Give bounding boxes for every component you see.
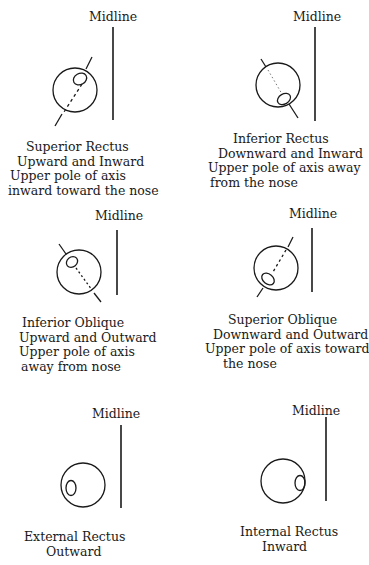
midline-label: Midline [289,206,337,221]
midline-label: Midline [292,403,340,418]
axis-solid-bottom [55,114,62,126]
axis-text: Upper pole of axis [19,345,157,360]
axis-dashed [76,268,92,290]
pupil-icon [64,254,80,269]
internal-rectus-figure [261,417,326,503]
muscle-title: Inferior Rectus [208,132,363,147]
axis-text: Upper pole of axis [4,169,159,184]
axis-text: away from nose [19,360,157,375]
midline-label: Midline [89,9,137,24]
pupil-icon [66,481,76,496]
eyeball-icon [53,68,97,112]
axis-solid-top [288,237,293,247]
caption-inferior-rectus: Inferior Rectus Downward and Inward Uppe… [208,132,363,190]
midline-label: Midline [293,9,341,24]
muscle-title: Superior Oblique [205,313,369,328]
movement-text: Upward and Inward [4,155,159,170]
axis-text: inward toward the nose [4,184,159,199]
superior-rectus-figure [53,27,113,126]
eyeball-icon [261,459,305,503]
inferior-rectus-figure [256,27,315,121]
inferior-oblique-figure [57,230,117,302]
axis-dashed [268,70,282,94]
caption-superior-rectus: Superior Rectus Upward and Inward Upper … [4,140,159,198]
axis-text: Upper pole of axis toward [205,342,369,357]
axis-text: from the nose [208,176,363,191]
axis-text: Upper pole of axis away [208,161,363,176]
axis-solid-bottom [257,288,263,297]
muscle-title: Inferior Oblique [19,316,157,331]
caption-internal-rectus: Internal Rectus Inward [240,525,338,554]
external-rectus-figure [61,425,121,508]
midline-label: Midline [95,208,143,223]
axis-solid-top [261,59,266,67]
superior-oblique-figure [254,228,312,297]
muscle-title: External Rectus [24,530,125,545]
midline-label: Midline [92,406,140,421]
movement-text: Inward [240,540,338,555]
movement-text: Upward and Outward [19,331,157,346]
caption-superior-oblique: Superior Oblique Downward and Outward Up… [205,313,369,371]
eyeball-icon [254,246,298,290]
muscle-title: Internal Rectus [240,525,338,540]
axis-dashed [64,84,82,112]
axis-solid-bottom [289,104,298,118]
axis-dashed [273,250,286,272]
eyeball-icon [61,463,105,507]
movement-text: Downward and Inward [208,147,363,162]
axis-solid-bottom [94,293,101,302]
caption-inferior-oblique: Inferior Oblique Upward and Outward Uppe… [19,316,157,374]
axis-solid-top [86,57,92,69]
muscle-title: Superior Rectus [4,140,159,155]
pupil-icon [71,71,89,88]
eye-muscle-diagram [0,0,369,565]
movement-text: Outward [24,545,125,560]
caption-external-rectus: External Rectus Outward [24,530,125,559]
axis-solid-top [59,244,66,254]
movement-text: Downward and Outward [205,328,369,343]
pupil-icon [295,476,305,491]
axis-text: the nose [205,357,369,372]
